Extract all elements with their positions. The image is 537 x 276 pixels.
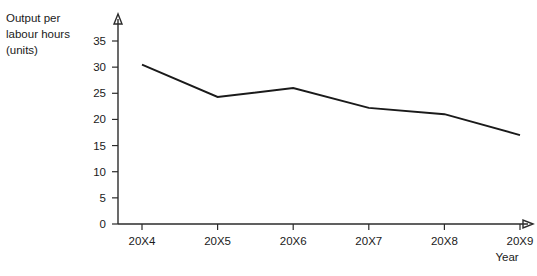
x-tick-label: 20X4 [129,235,156,247]
x-tick-label: 20X6 [280,235,307,247]
x-tick-label: 20X5 [204,235,231,247]
y-tick-label: 15 [93,140,106,152]
y-tick-label: 30 [93,61,106,73]
y-tick-label: 20 [93,113,106,125]
chart-figure: Output perlabour hours(units) Year 05101… [0,0,537,276]
y-tick-label: 25 [93,87,106,99]
data-series-group [142,65,520,136]
y-tick-label: 35 [93,35,106,47]
y-tick-label: 10 [93,166,106,178]
y-tick-labels: 05101520253035 [93,35,106,230]
x-axis: 20X420X520X620X720X820X9 [118,220,533,247]
x-tick-label: 20X7 [355,235,382,247]
y-tick-label: 5 [100,192,106,204]
x-tick-label: 20X8 [431,235,458,247]
x-tick-label: 20X9 [507,235,534,247]
series-line-output-per-labour-hours [142,65,520,136]
x-tick-labels: 20X420X520X620X720X820X9 [129,235,534,247]
line-chart-plot: 05101520253035 20X420X520X620X720X820X9 [0,0,537,276]
y-tick-marks [112,41,118,224]
y-axis: 05101520253035 [93,14,122,230]
x-tick-marks [142,224,520,230]
y-tick-label: 0 [100,218,106,230]
